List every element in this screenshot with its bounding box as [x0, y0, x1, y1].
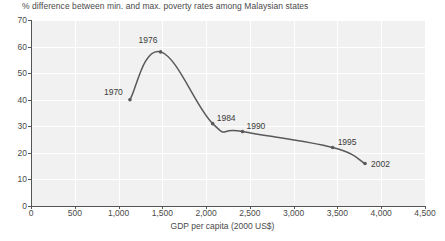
data-point-label-1970: 1970 [104, 87, 123, 97]
gridline-vertical [425, 20, 426, 206]
gridline-vertical [337, 20, 338, 206]
x-tick-label: 3,000 [274, 208, 314, 218]
data-point-label-1990: 1990 [246, 121, 265, 131]
x-axis-line [31, 206, 426, 207]
y-tick-label: 60 [0, 42, 27, 52]
y-tick-label: 50 [0, 68, 27, 78]
x-tick-label: 0 [11, 208, 51, 218]
x-tick-label: 1,500 [142, 208, 182, 218]
x-axis-title: GDP per capita (2000 US$) [0, 221, 445, 231]
y-tick-mark [28, 20, 31, 21]
y-tick-mark [28, 100, 31, 101]
gridline-vertical [119, 20, 120, 206]
x-tick-mark [75, 206, 76, 209]
chart-title: % difference between min. and max. pover… [22, 1, 308, 11]
x-tick-mark [381, 206, 382, 209]
y-tick-label: 20 [0, 148, 27, 158]
y-tick-label: 40 [0, 95, 27, 105]
x-tick-label: 3,500 [317, 208, 357, 218]
gridline-vertical [206, 20, 207, 206]
y-tick-label: 70 [0, 15, 27, 25]
gridline-horizontal [31, 47, 425, 48]
data-point-label-1995: 1995 [338, 137, 357, 147]
y-tick-label: 10 [0, 174, 27, 184]
x-tick-mark [31, 206, 32, 209]
x-tick-label: 500 [55, 208, 95, 218]
gridline-vertical [250, 20, 251, 206]
gridline-horizontal [31, 126, 425, 127]
x-tick-label: 2,000 [186, 208, 226, 218]
gridline-vertical [162, 20, 163, 206]
x-tick-mark [119, 206, 120, 209]
gridline-horizontal [31, 73, 425, 74]
y-tick-label: 30 [0, 121, 27, 131]
y-tick-mark [28, 153, 31, 154]
x-tick-mark [294, 206, 295, 209]
x-tick-label: 2,500 [230, 208, 270, 218]
x-tick-label: 4,000 [361, 208, 401, 218]
y-tick-mark [28, 126, 31, 127]
gridline-horizontal [31, 153, 425, 154]
poverty-gdp-line-chart: % difference between min. and max. pover… [0, 0, 445, 241]
gridline-vertical [381, 20, 382, 206]
gridline-horizontal [31, 20, 425, 21]
x-tick-mark [206, 206, 207, 209]
gridline-vertical [75, 20, 76, 206]
data-point-label-1984: 1984 [217, 113, 236, 123]
x-tick-mark [425, 206, 426, 209]
y-tick-mark [28, 73, 31, 74]
data-point-label-2002: 2002 [371, 159, 390, 169]
x-tick-mark [337, 206, 338, 209]
y-tick-mark [28, 47, 31, 48]
y-tick-mark [28, 179, 31, 180]
gridline-horizontal [31, 100, 425, 101]
y-axis-line [31, 20, 32, 207]
x-tick-label: 4,500 [405, 208, 445, 218]
x-tick-mark [162, 206, 163, 209]
data-point-label-1976: 1976 [139, 35, 158, 45]
x-tick-label: 1,000 [99, 208, 139, 218]
x-tick-mark [250, 206, 251, 209]
gridline-horizontal [31, 179, 425, 180]
gridline-vertical [294, 20, 295, 206]
